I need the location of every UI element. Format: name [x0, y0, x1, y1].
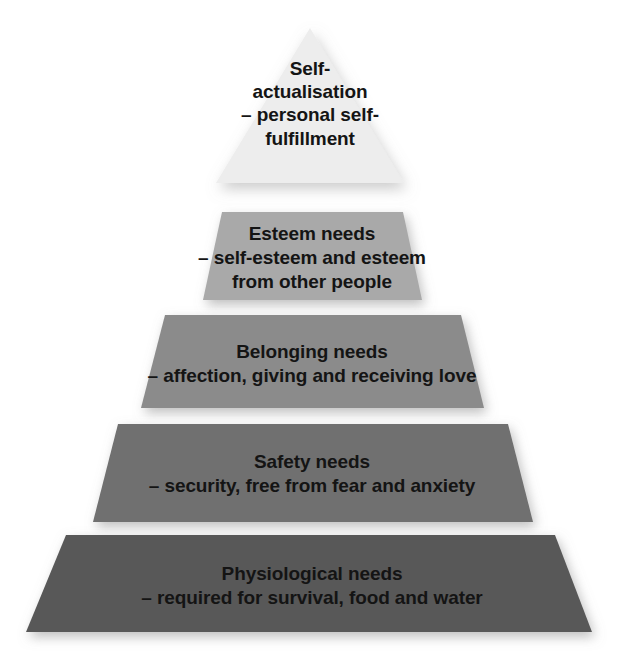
pyramid-tier-3-shape: [141, 315, 484, 408]
maslow-pyramid-diagram: Self- actualisation – personal self- ful…: [0, 0, 625, 665]
pyramid-tier-5-shape: [26, 535, 592, 632]
pyramid-tier-4-shape: [93, 424, 533, 522]
pyramid-tier-1-shape: [216, 28, 404, 183]
pyramid-graphic: [0, 0, 625, 665]
pyramid-tier-2-shape: [203, 212, 422, 300]
